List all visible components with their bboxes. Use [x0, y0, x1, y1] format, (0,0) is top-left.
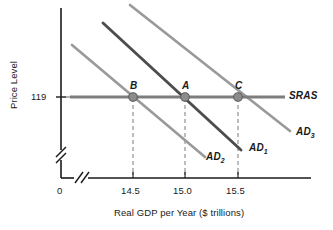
ad2-label-subscript: 2 — [221, 157, 225, 164]
y-tick-label-119: 119 — [31, 92, 46, 102]
equilibrium-marker-c[interactable] — [234, 93, 243, 102]
origin-label: 0 — [57, 186, 62, 196]
equilibrium-marker-a[interactable] — [181, 93, 190, 102]
x-axis-break-mark — [75, 172, 89, 183]
point-label-a: A — [182, 81, 189, 91]
equilibrium-marker-b[interactable] — [129, 93, 138, 102]
ad3-label-subscript: 3 — [311, 132, 315, 139]
sras-curve-label: SRAS — [289, 91, 318, 101]
ad3-curve-label: AD3 — [296, 127, 315, 139]
ad2-label-base: AD — [206, 151, 221, 162]
ad1-label-base: AD — [249, 142, 264, 153]
x-axis-title: Real GDP per Year ($ trillions) — [114, 208, 244, 218]
economics-ad-sras-chart: Price Level 119 0 14.5 15.0 15.5 Real GD… — [0, 0, 333, 230]
y-axis-title-text: Price Level — [8, 61, 19, 109]
point-label-b: B — [130, 81, 137, 91]
ad2-curve-label: AD2 — [206, 152, 225, 164]
ad1-label-subscript: 1 — [264, 148, 268, 155]
ad1-curve-label: AD1 — [249, 143, 268, 155]
x-tick-label-15-0: 15.0 — [173, 186, 192, 196]
y-axis-title: Price Level — [6, 20, 20, 150]
x-tick-label-14-5: 14.5 — [121, 186, 140, 196]
ad3-label-base: AD — [296, 126, 311, 137]
point-label-c: C — [235, 81, 242, 91]
chart-canvas — [0, 0, 333, 230]
x-tick-label-15-5: 15.5 — [226, 186, 245, 196]
